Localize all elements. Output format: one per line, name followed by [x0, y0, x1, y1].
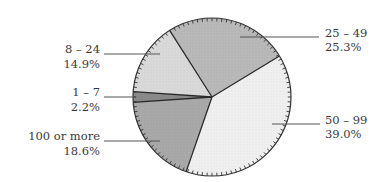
slice-range-label: 50 – 99: [325, 113, 367, 127]
slice-percent-label: 14.9%: [63, 57, 100, 71]
slice-percent-label: 39.0%: [325, 127, 362, 141]
slice-percent-label: 25.3%: [325, 40, 362, 54]
slice-percent-label: 2.2%: [71, 100, 100, 114]
pie-slices: [133, 18, 291, 176]
slice-range-label: 25 – 49: [325, 26, 367, 40]
slice-range-label: 8 – 24: [65, 42, 100, 56]
slice-range-label: 100 or more: [28, 129, 100, 143]
slice-range-label: 1 – 7: [72, 85, 100, 99]
slice-percent-label: 18.6%: [63, 144, 100, 158]
pie-chart: 25 – 4925.3%50 – 9939.0%100 or more18.6%…: [0, 0, 380, 182]
